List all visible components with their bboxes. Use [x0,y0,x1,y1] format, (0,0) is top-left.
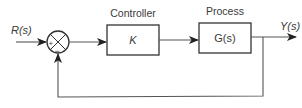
controller-transfer-function: K [129,34,137,46]
input-label: R(s) [11,24,32,36]
process-tf-text: G(s) [214,32,235,44]
output-label: Y(s) [280,20,301,32]
process-transfer-function: G(s) [214,32,235,44]
plus-sign: + [49,39,54,48]
minus-sign: − [55,46,60,56]
summing-junction: + − [47,31,69,56]
controller-title: Controller [110,7,156,19]
block-diagram: R(s) + − Controller K Process G(s) Y(s) [0,0,302,108]
process-title: Process [206,5,244,17]
